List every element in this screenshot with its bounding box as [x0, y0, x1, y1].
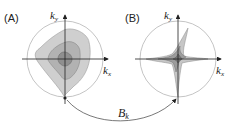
panel-b: (B) ky kx	[125, 9, 225, 104]
connector-label: Bk	[118, 106, 129, 121]
figure: (A) ky kx (B) ky kx Bk	[0, 0, 238, 126]
panel-label-a: (A)	[4, 12, 19, 24]
connector-start-dot	[63, 96, 66, 99]
ky-label-b: ky	[164, 9, 173, 23]
panel-a: (A) ky kx	[4, 9, 112, 104]
connector: Bk	[63, 96, 176, 121]
kx-label-b: kx	[216, 64, 225, 78]
ky-label-a: ky	[50, 9, 59, 23]
kx-label-a: kx	[103, 64, 112, 78]
panel-label-b: (B)	[125, 12, 140, 24]
